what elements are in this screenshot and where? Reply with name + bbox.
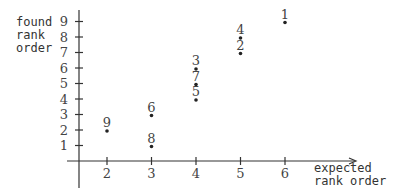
x-tick-label: 6: [281, 166, 289, 181]
y-tick-label: 8: [60, 30, 68, 45]
y-axis-label: foundrankorder: [16, 15, 52, 55]
data-point-label: 3: [192, 53, 200, 68]
data-point-label: 4: [236, 22, 244, 37]
x-tick-label: 3: [147, 166, 155, 181]
y-tick-label: 6: [60, 61, 68, 76]
y-tick-label: 1: [60, 138, 68, 153]
y-tick-label: 5: [60, 76, 68, 91]
y-tick-label: 4: [60, 92, 68, 107]
y-tick-label: 3: [60, 107, 68, 122]
x-axis-label: expectedrank order: [314, 161, 386, 188]
y-axis-label-line: rank: [16, 28, 46, 42]
data-point-label: 6: [147, 100, 155, 115]
axes: [67, 10, 356, 188]
scatter-chart: 123456789 23456 123456789 foundrankorder…: [0, 0, 403, 195]
y-tick-label: 7: [60, 45, 68, 60]
y-axis-label-line: found: [16, 15, 52, 29]
y-tick-label: 9: [60, 14, 68, 29]
data-point-label: 8: [147, 131, 155, 146]
data-point-label: 9: [103, 115, 111, 130]
x-tick-label: 4: [192, 166, 200, 181]
x-tick-label: 2: [103, 166, 111, 181]
x-tick-label: 5: [236, 166, 244, 181]
y-tick-label: 2: [60, 123, 68, 138]
x-axis-label-line: expected: [314, 161, 372, 175]
x-axis-label-line: rank order: [314, 174, 386, 188]
data-points: 123456789: [103, 7, 289, 149]
data-point-label: 1: [281, 7, 289, 22]
data-point-label: 7: [192, 69, 200, 84]
y-axis-label-line: order: [16, 41, 52, 55]
